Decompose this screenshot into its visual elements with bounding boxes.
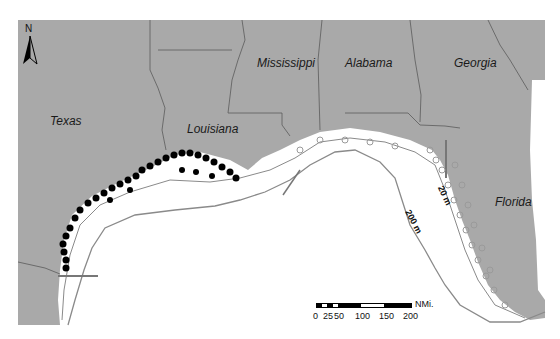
scale-tick: 50: [334, 311, 344, 321]
state-label-florida: Florida: [495, 195, 532, 209]
state-label-louisiana: Louisiana: [187, 122, 238, 136]
scale-tick: 0: [313, 311, 318, 321]
scale-unit: NMi.: [415, 299, 434, 309]
scale-tick: 200: [403, 311, 418, 321]
scale-tick: 25: [323, 311, 333, 321]
state-label-texas: Texas: [50, 114, 82, 128]
scale-tick: 100: [355, 311, 370, 321]
scale-tick: 150: [379, 311, 394, 321]
state-label-mississippi: Mississippi: [257, 56, 315, 70]
north-label: N: [25, 23, 32, 34]
gulf-map: [0, 0, 560, 339]
scale-bar-graphic: [316, 303, 412, 308]
state-label-georgia: Georgia: [454, 56, 497, 70]
state-label-alabama: Alabama: [345, 56, 392, 70]
